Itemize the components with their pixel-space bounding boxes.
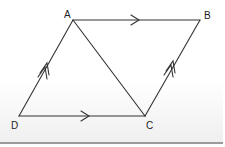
label-c: C bbox=[146, 120, 153, 131]
double-arrow-marker-cb bbox=[164, 61, 175, 77]
double-arrow-marker-da bbox=[38, 63, 49, 79]
segment-cb bbox=[145, 20, 200, 116]
segment-ac bbox=[73, 20, 145, 116]
parallelogram-diagram: A B C D bbox=[0, 0, 225, 147]
label-a: A bbox=[64, 9, 71, 20]
label-d: D bbox=[11, 120, 18, 131]
right-margin bbox=[223, 0, 225, 147]
diagram-canvas: A B C D bbox=[0, 0, 225, 147]
segment-da bbox=[19, 20, 73, 116]
label-b: B bbox=[204, 10, 211, 21]
bottom-margin bbox=[0, 144, 225, 147]
